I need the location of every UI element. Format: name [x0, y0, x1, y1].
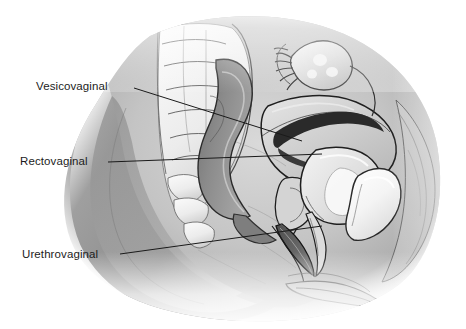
label-rectovaginal: Rectovaginal — [20, 155, 88, 167]
label-urethrovaginal: Urethrovaginal — [22, 248, 98, 260]
pelvic-fistula-figure: Vesicovaginal Rectovaginal Urethrovagina… — [0, 0, 466, 329]
label-vesicovaginal: Vesicovaginal — [36, 80, 108, 92]
